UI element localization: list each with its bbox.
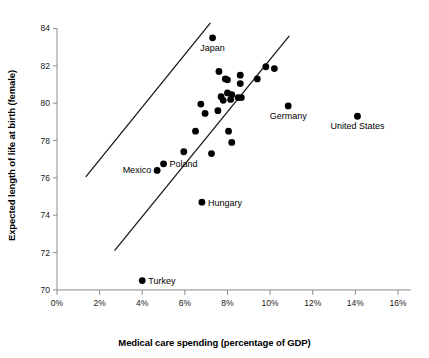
point-label-poland: Poland (170, 159, 198, 169)
point-label-hungary: Hungary (208, 198, 243, 208)
x-tick-label: 12% (304, 298, 321, 308)
axis-ticks (53, 28, 398, 294)
x-tick-label: 4% (136, 298, 149, 308)
point-label-germany: Germany (270, 111, 308, 121)
y-axis-title: Expected length of life at birth (female… (7, 69, 18, 240)
x-axis-title-holder: Medical care spending (percentage of GDP… (0, 332, 429, 350)
data-point (254, 75, 261, 82)
upper-band-line (86, 23, 211, 177)
data-point (262, 63, 269, 70)
data-point (180, 148, 187, 155)
y-tick-label: 80 (41, 98, 51, 108)
data-point-poland (160, 160, 167, 167)
y-tick-label: 76 (41, 173, 51, 183)
point-label-mexico: Mexico (123, 165, 152, 175)
data-point-turkey (139, 277, 146, 284)
x-tick-label: 0% (51, 298, 64, 308)
data-point (202, 110, 209, 117)
data-point (237, 72, 244, 79)
data-point (237, 80, 244, 87)
point-label-united-states: United States (330, 121, 385, 131)
data-point (208, 150, 215, 157)
x-tick-label: 16% (389, 298, 406, 308)
data-point (216, 68, 223, 75)
data-point (214, 107, 221, 114)
data-point (197, 101, 204, 108)
data-point (220, 97, 227, 104)
scatter-chart-figure: 70727476788082840%2%4%6%8%10%12%14%16% J… (0, 0, 429, 358)
data-point (224, 76, 231, 83)
y-tick-label: 70 (41, 285, 51, 295)
point-label-japan: Japan (200, 43, 225, 53)
data-point (227, 96, 234, 103)
x-axis-title: Medical care spending (percentage of GDP… (118, 337, 310, 348)
x-tick-label: 10% (262, 298, 279, 308)
data-point-japan (209, 34, 216, 41)
x-tick-label: 2% (93, 298, 106, 308)
axes (57, 28, 411, 289)
data-point-germany (285, 103, 292, 110)
data-point-mexico (154, 167, 161, 174)
data-point (238, 94, 245, 101)
data-point (192, 128, 199, 135)
x-tick-label: 8% (221, 298, 234, 308)
data-point (228, 139, 235, 146)
plot-area: 70727476788082840%2%4%6%8%10%12%14%16% J… (0, 0, 429, 358)
data-point (225, 128, 232, 135)
y-tick-label: 84 (41, 23, 51, 33)
y-axis-title-holder: Expected length of life at birth (female… (2, 0, 22, 310)
y-tick-label: 82 (41, 61, 51, 71)
x-tick-label: 14% (347, 298, 364, 308)
x-tick-label: 6% (179, 298, 192, 308)
data-point-united-states (354, 113, 361, 120)
y-tick-label: 78 (41, 136, 51, 146)
data-point-hungary (199, 199, 206, 206)
data-point (271, 65, 278, 72)
point-label-turkey: Turkey (148, 276, 176, 286)
band-boundary-lines (86, 23, 290, 251)
y-tick-label: 74 (41, 210, 51, 220)
y-tick-label: 72 (41, 248, 51, 258)
